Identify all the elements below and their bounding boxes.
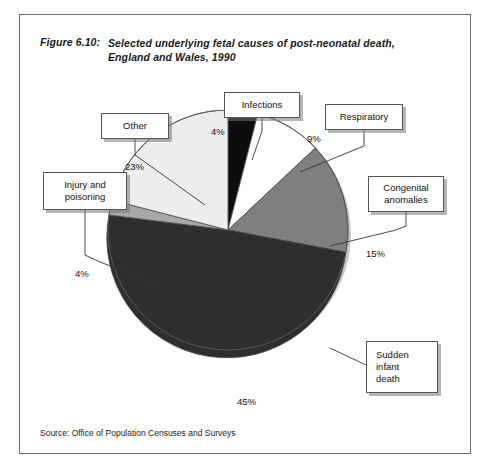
callout-other-text: Other <box>123 120 147 132</box>
callout-infections[interactable]: Infections <box>224 92 300 118</box>
percent-label-injury-and-poisoning: 4% <box>75 268 89 279</box>
source-note: Source: Office of Population Censuses an… <box>40 428 235 438</box>
callout-sudden-infant-death[interactable]: Sudden infant death <box>366 341 438 393</box>
callout-injury-and-poisoning[interactable]: Injury and poisoning <box>43 172 127 210</box>
callout-congenital-line-2: anomalies <box>383 194 428 206</box>
callout-respiratory-line-1: Respiratory <box>340 111 389 123</box>
figure-page: Figure 6.10: Selected underlying fetal c… <box>0 0 488 474</box>
title-line-2: England and Wales, 1990 <box>108 50 428 64</box>
callout-injury-line-2: poisoning <box>64 191 106 203</box>
callout-infections-text: Infections <box>242 99 283 111</box>
callout-congenital-anomalies[interactable]: Congenital anomalies <box>368 176 444 212</box>
percent-label-sudden-infant-death: 45% <box>237 396 256 407</box>
pie-chart <box>100 110 356 392</box>
callout-congenital-text: Congenital anomalies <box>383 182 428 206</box>
callout-respiratory[interactable]: Respiratory <box>325 104 403 130</box>
percent-label-other: 23% <box>125 161 144 172</box>
pie-slices <box>107 110 348 358</box>
percent-label-infections: 4% <box>211 126 225 137</box>
percent-label-respiratory: 9% <box>307 133 321 144</box>
page-title: Selected underlying fetal causes of post… <box>108 36 428 64</box>
callout-sudden-text: Sudden infant death <box>376 349 409 385</box>
callout-congenital-line-1: Congenital <box>383 182 428 194</box>
callout-injury-text: Injury and poisoning <box>64 179 106 203</box>
callout-other-line-1: Other <box>123 120 147 132</box>
callout-other[interactable]: Other <box>101 113 169 139</box>
title-line-1: Selected underlying fetal causes of post… <box>108 36 428 50</box>
callout-respiratory-text: Respiratory <box>340 111 389 123</box>
callout-sudden-line-1: Sudden <box>376 349 409 361</box>
callout-infections-line-1: Infections <box>242 99 283 111</box>
callout-injury-line-1: Injury and <box>64 179 106 191</box>
percent-label-congenital-anomalies: 15% <box>366 248 385 259</box>
callout-sudden-line-2: infant <box>376 361 409 373</box>
figure-number: Figure 6.10: <box>40 36 100 48</box>
callout-sudden-line-3: death <box>376 373 409 385</box>
pie-chart-svg <box>100 110 356 392</box>
